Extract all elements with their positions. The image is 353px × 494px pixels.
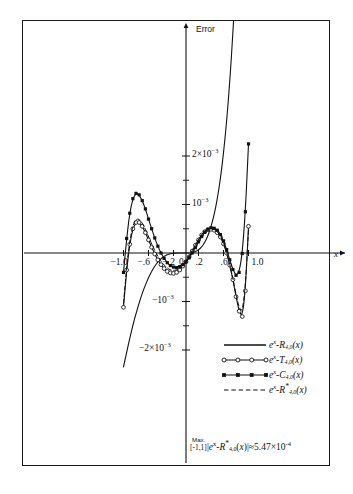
legend-item-1: ex-T4,0(x) bbox=[222, 353, 326, 367]
y-axis-title: Error bbox=[196, 25, 215, 34]
annotation-interval: [-1,1] bbox=[190, 443, 207, 452]
series-0 bbox=[124, 0, 240, 367]
x-tick-label-.2: .2 bbox=[196, 258, 203, 268]
legend-key-solid-line bbox=[222, 339, 266, 351]
legend-key-dashed-line bbox=[222, 384, 266, 396]
max-error-annotation: Max. [-1,1]|ex-R*4,0(x)|≈5.47×10-4 bbox=[190, 437, 330, 452]
legend-label-2: ex-C4,0(x) bbox=[269, 370, 304, 380]
x-tick-label-0: 0 bbox=[179, 258, 184, 268]
x-tick-label-.6: .6 bbox=[221, 258, 228, 268]
legend-item-0: ex-R4,0(x) bbox=[222, 338, 326, 352]
y-tick-label-neg1e-3: −10−3 bbox=[152, 296, 174, 306]
y-tick-label-neg2e-3: −2×10−3 bbox=[139, 344, 171, 354]
legend-item-2: ex-C4,0(x) bbox=[222, 368, 326, 382]
x-tick-label-1.0: 1.0 bbox=[252, 258, 264, 268]
figure-container: Error x −1.0−.6−.20.2.61.02×10−310−3−10−… bbox=[0, 0, 353, 494]
x-tick-label--.6: −.6 bbox=[138, 258, 150, 268]
x-axis-title: x bbox=[334, 249, 338, 259]
legend-key-square-line bbox=[222, 369, 266, 381]
y-tick-label-2e-3: 2×10−3 bbox=[192, 150, 218, 160]
y-tick-label-1e-3: 10−3 bbox=[192, 199, 208, 209]
legend-label-1: ex-T4,0(x) bbox=[269, 355, 302, 365]
legend-label-3: ex-R*4,0(x) bbox=[269, 385, 307, 395]
annotation-body: [-1,1]|ex-R*4,0(x)|≈5.47×10-4 bbox=[190, 442, 291, 452]
legend-label-0: ex-R4,0(x) bbox=[269, 340, 303, 350]
plot-canvas bbox=[0, 0, 353, 494]
x-tick-label--1.0: −1.0 bbox=[111, 258, 128, 268]
legend: ex-R4,0(x) ex-T4,0(x) ex-C4,0(x) ex-R*4,… bbox=[222, 338, 326, 398]
legend-key-circle-line bbox=[222, 354, 266, 366]
legend-item-3: ex-R*4,0(x) bbox=[222, 383, 326, 397]
x-tick-label--.2: −.2 bbox=[163, 258, 175, 268]
